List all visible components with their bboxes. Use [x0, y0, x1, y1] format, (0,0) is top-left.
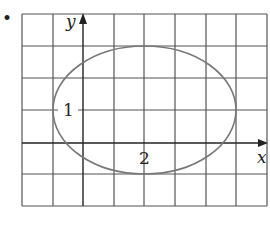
x-tick-label: 2 [139, 148, 150, 168]
y-tick-label: 1 [63, 100, 74, 120]
y-axis-arrow-icon [79, 13, 87, 24]
x-axis-label: x [257, 147, 267, 167]
ellipse-diagram: • 1 2 x y [0, 0, 270, 228]
y-axis-label: y [65, 11, 76, 31]
bullet: • [2, 8, 12, 28]
